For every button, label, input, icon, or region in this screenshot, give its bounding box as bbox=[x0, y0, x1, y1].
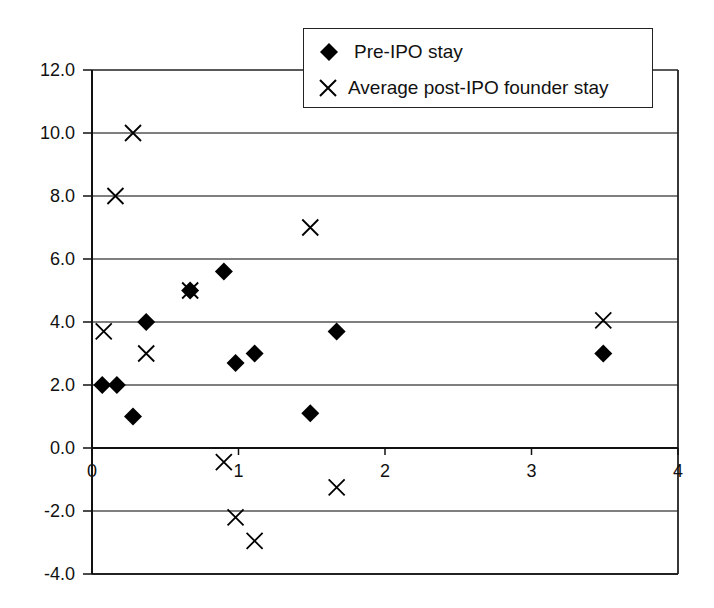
x-marker-icon bbox=[216, 454, 232, 470]
x-tick-label: 4 bbox=[673, 461, 683, 481]
y-tick-label: 2.0 bbox=[50, 375, 75, 395]
y-tick-label: -4.0 bbox=[44, 564, 75, 584]
legend-item-pre-ipo: Pre-IPO stay bbox=[304, 37, 463, 67]
legend-label: Pre-IPO stay bbox=[354, 41, 463, 63]
x-marker-icon bbox=[329, 479, 345, 495]
y-tick-label: 0.0 bbox=[50, 438, 75, 458]
diamond-marker-icon bbox=[328, 322, 346, 340]
diamond-marker-icon bbox=[227, 354, 245, 372]
diamond-marker-icon bbox=[124, 408, 142, 426]
x-marker-icon bbox=[96, 323, 112, 339]
y-tick-label: 10.0 bbox=[40, 123, 75, 143]
x-marker-icon bbox=[595, 312, 611, 328]
diamond-marker-icon bbox=[594, 345, 612, 363]
x-marker-icon bbox=[228, 509, 244, 525]
diamond-marker-icon bbox=[314, 40, 344, 64]
y-tick-label: 8.0 bbox=[50, 186, 75, 206]
x-axis-ticks: 01234 bbox=[87, 448, 683, 481]
y-tick-label: 12.0 bbox=[40, 60, 75, 80]
x-tick-label: 0 bbox=[87, 461, 97, 481]
x-marker-icon bbox=[138, 346, 154, 362]
x-marker-icon bbox=[302, 220, 318, 236]
x-marker-icon bbox=[247, 533, 263, 549]
x-tick-label: 1 bbox=[233, 461, 243, 481]
y-tick-label: -2.0 bbox=[44, 501, 75, 521]
y-tick-label: 4.0 bbox=[50, 312, 75, 332]
y-axis-ticks: 12.010.08.06.04.02.00.0-2.0-4.0 bbox=[40, 60, 92, 584]
diamond-marker-icon bbox=[215, 263, 233, 281]
legend: Pre-IPO stay Average post-IPO founder st… bbox=[303, 28, 653, 108]
legend-item-post-ipo: Average post-IPO founder stay bbox=[304, 73, 609, 103]
diamond-marker-icon bbox=[137, 313, 155, 331]
diamond-marker-icon bbox=[246, 345, 264, 363]
diamond-marker-icon bbox=[108, 376, 126, 394]
diamond-marker-icon bbox=[301, 404, 319, 422]
x-marker-icon bbox=[314, 76, 344, 100]
data-points bbox=[93, 125, 612, 549]
x-tick-label: 3 bbox=[526, 461, 536, 481]
x-tick-label: 2 bbox=[380, 461, 390, 481]
y-tick-label: 6.0 bbox=[50, 249, 75, 269]
legend-label: Average post-IPO founder stay bbox=[348, 77, 609, 99]
